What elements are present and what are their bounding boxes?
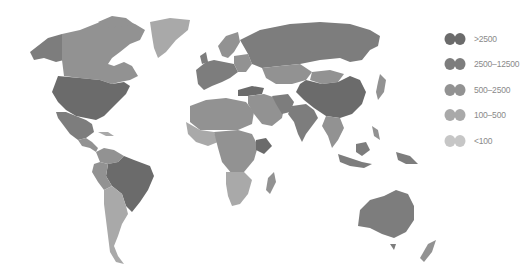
legend-item-500-2500: 500–2500 xyxy=(444,77,522,103)
globe-swatch-icon xyxy=(444,83,466,97)
region-caribbean xyxy=(98,132,114,136)
region-ethiopia xyxy=(256,138,272,154)
region-tasmania xyxy=(390,244,396,250)
legend-label: <100 xyxy=(474,136,492,146)
region-scandinavia xyxy=(218,32,240,58)
region-japan xyxy=(376,74,386,100)
region-papua xyxy=(396,152,418,164)
region-southern-africa xyxy=(226,172,252,206)
region-greenland xyxy=(150,18,190,58)
map-legend: >2500 2500–12500 500–2500 100–500 <100 xyxy=(444,26,522,154)
region-canada xyxy=(62,20,145,84)
region-central-africa xyxy=(214,130,258,174)
region-india xyxy=(288,104,318,142)
legend-item-2500-12500: 2500–12500 xyxy=(444,52,522,78)
region-central-america xyxy=(78,138,98,152)
legend-label: 100–500 xyxy=(474,110,506,120)
region-australia xyxy=(358,190,414,238)
region-western-europe xyxy=(196,60,238,90)
legend-item-lt-100: <100 xyxy=(444,128,522,154)
legend-item-100-500: 100–500 xyxy=(444,103,522,129)
globe-swatch-icon xyxy=(444,134,466,148)
region-philippines xyxy=(372,126,380,140)
globe-swatch-icon xyxy=(444,57,466,71)
legend-item-gt-2500: >2500 xyxy=(444,26,522,52)
region-new-zealand xyxy=(420,240,436,262)
legend-label: 500–2500 xyxy=(474,85,510,95)
region-russia xyxy=(240,22,380,68)
region-indonesia xyxy=(338,154,372,168)
region-southeast-asia xyxy=(322,116,344,148)
globe-swatch-icon xyxy=(444,108,466,122)
legend-label: >2500 xyxy=(474,34,497,44)
region-borneo xyxy=(356,142,370,156)
globe-swatch-icon xyxy=(444,32,466,46)
legend-label: 2500–12500 xyxy=(474,59,519,69)
region-madagascar xyxy=(266,172,276,194)
region-alaska xyxy=(30,34,64,62)
region-north-africa xyxy=(190,98,254,130)
region-uk xyxy=(200,52,208,64)
